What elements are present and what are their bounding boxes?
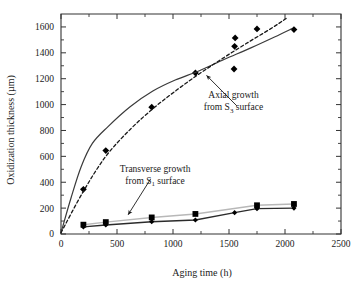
oxidization-thickness-chart: 05001000150020002500 0200400600800100012… — [0, 0, 364, 283]
y-axis-title: Oxidization thickness (µm) — [5, 75, 17, 185]
y-tick-label: 1000 — [35, 100, 54, 110]
x-tick-label: 0 — [59, 239, 64, 249]
x-tick-label: 2500 — [332, 239, 351, 249]
y-tick-label: 400 — [40, 178, 55, 188]
y-tick-label: 1400 — [35, 48, 54, 58]
x-tick-label: 1500 — [220, 239, 239, 249]
data-point-square — [193, 211, 199, 217]
y-tick-label: 200 — [40, 204, 55, 214]
x-tick-label: 2000 — [276, 239, 295, 249]
x-tick-label: 1000 — [164, 239, 183, 249]
x-axis-title: Aging time (h) — [172, 267, 231, 279]
axial-annotation-line1: Axial growth — [208, 90, 259, 100]
figure-container: 05001000150020002500 0200400600800100012… — [0, 0, 364, 283]
y-tick-label: 1200 — [35, 74, 54, 84]
y-tick-label: 0 — [49, 229, 54, 239]
y-tick-label: 1600 — [35, 22, 54, 32]
y-tick-label: 800 — [40, 126, 55, 136]
x-tick-label: 500 — [110, 239, 125, 249]
transverse-annotation-line1: Transverse growth — [120, 164, 191, 174]
y-tick-label: 600 — [40, 152, 55, 162]
